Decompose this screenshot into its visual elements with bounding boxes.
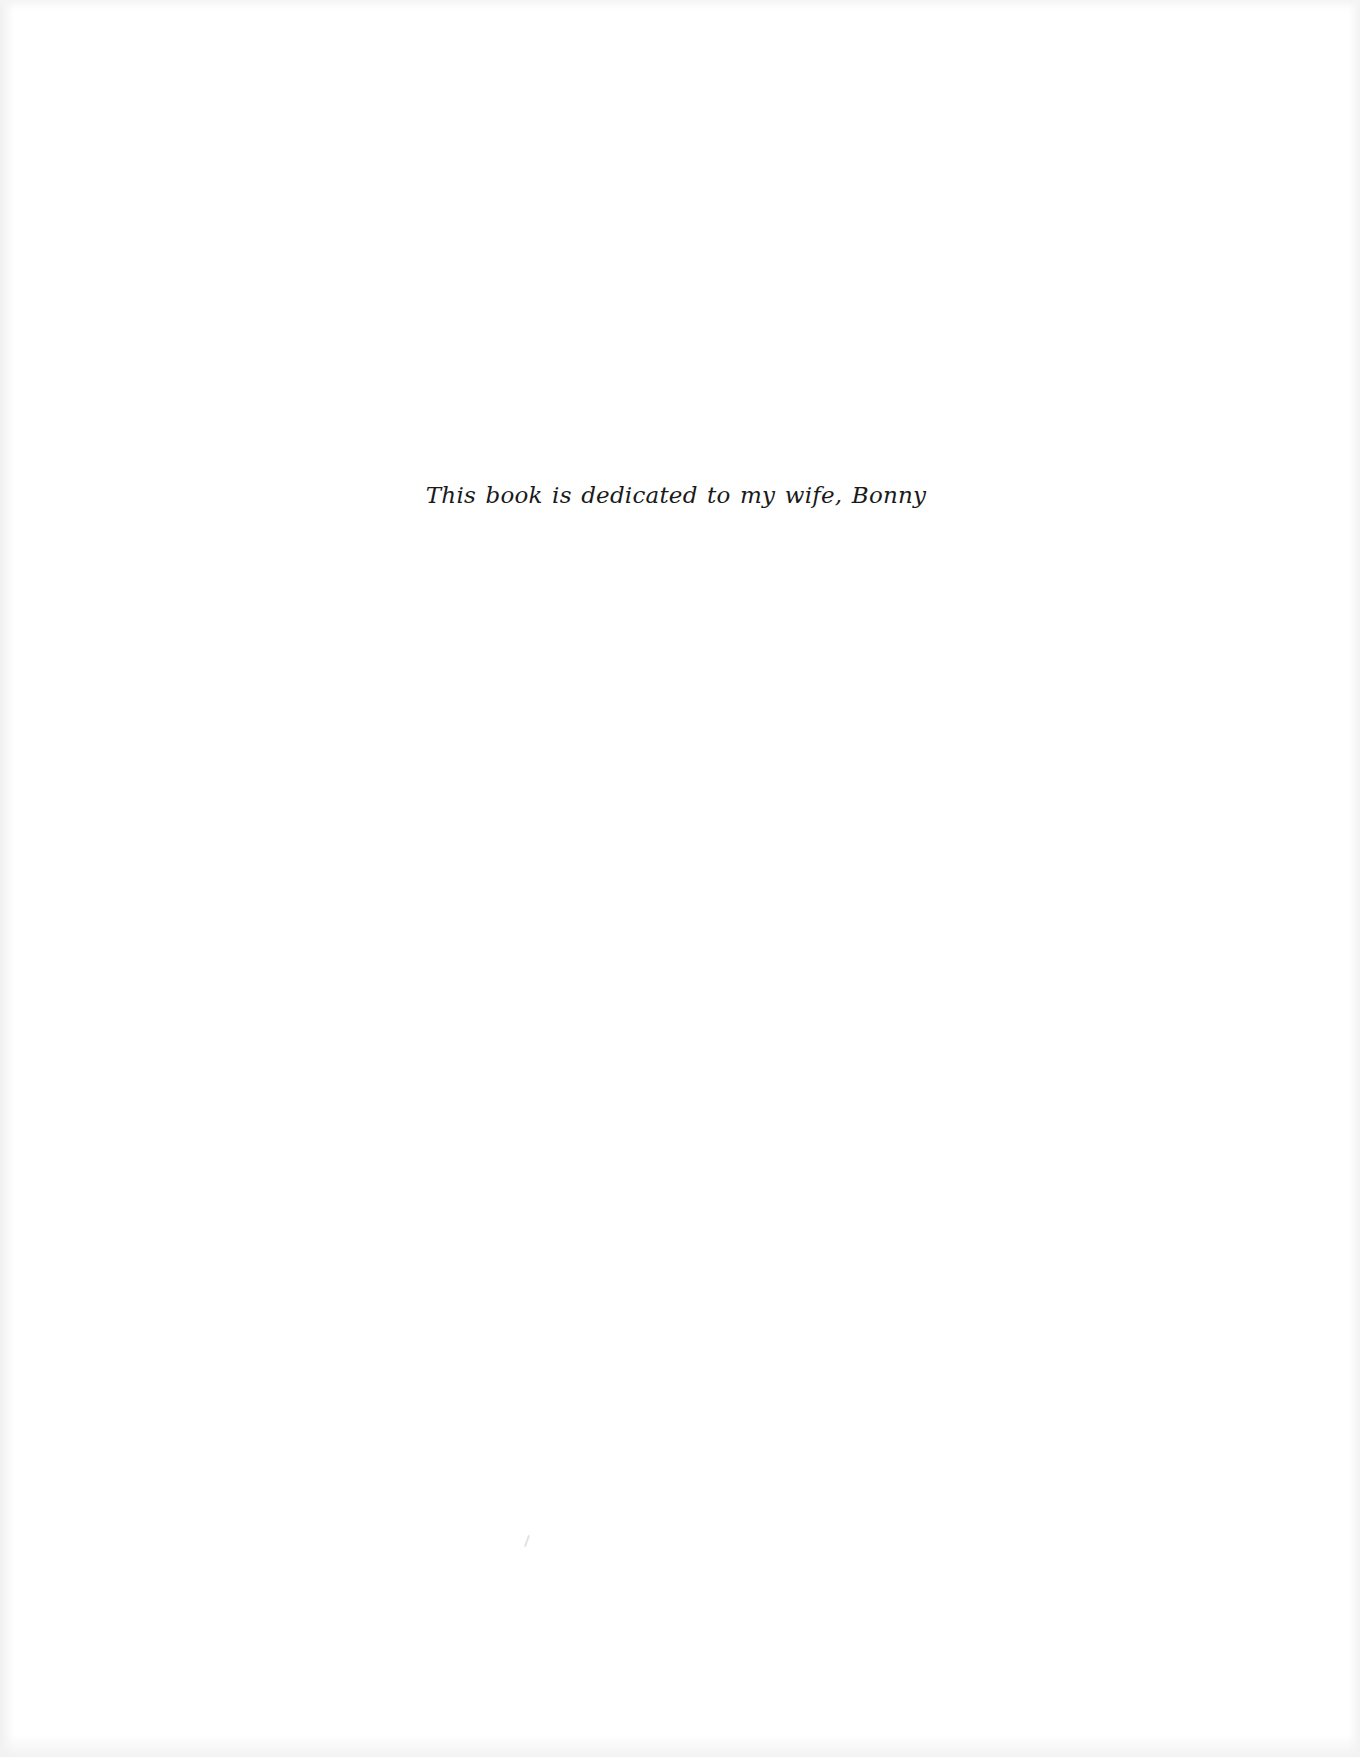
dedication-text: This book is dedicated to my wife, Bonny: [0, 478, 1352, 512]
scan-edge-left: [0, 0, 14, 1757]
dedication-page: This book is dedicated to my wife, Bonny: [0, 0, 1360, 1757]
scan-edge-top: [0, 0, 1360, 10]
scan-edge-bottom: [0, 1735, 1360, 1757]
scan-edge-right: [1348, 0, 1360, 1757]
scan-speck: [524, 1535, 530, 1547]
